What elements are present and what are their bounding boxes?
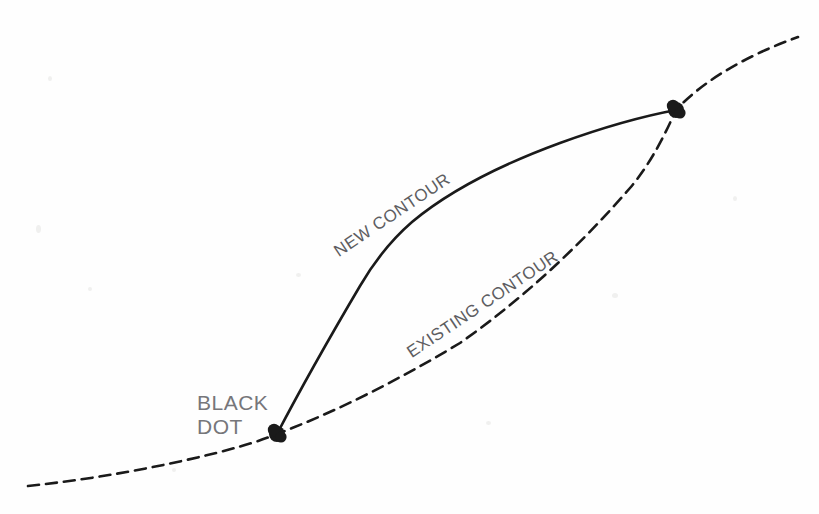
black-dot-left-marker [268, 424, 287, 443]
black-dot-label: BLACKDOT [197, 391, 268, 439]
contour-plot-canvas [0, 0, 819, 514]
existing-contour-path [28, 37, 798, 486]
new-contour-path [277, 110, 676, 434]
existing-contour-path-group [28, 37, 798, 486]
black-dot-label-line2: DOT [197, 415, 243, 438]
new-contour-path-group [277, 110, 676, 434]
black-dot-label-line1: BLACK [197, 391, 268, 414]
contour-diagram: BLACKDOT NEW CONTOUR EXISTING CONTOUR [0, 0, 819, 514]
